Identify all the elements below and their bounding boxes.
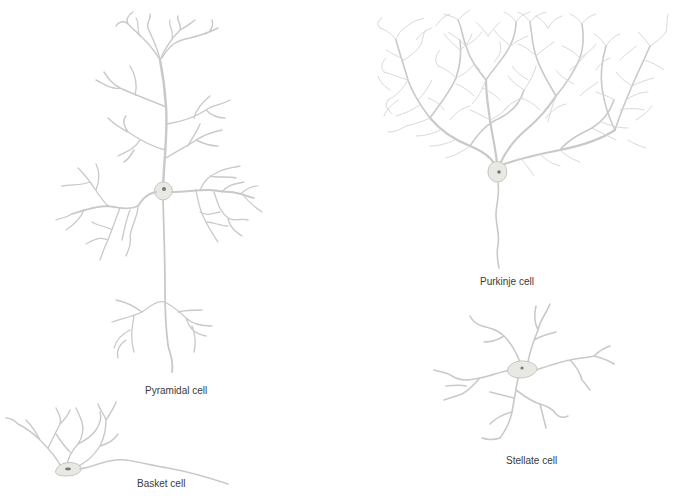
pyramidal-cell-drawing [56,12,262,372]
neuron-illustrations [0,0,683,500]
basket-cell-drawing [6,402,228,484]
purkinje-cell-label: Purkinje cell [480,276,534,287]
neuron-types-figure: Pyramidal cell Purkinje cell Stellate ce… [0,0,683,500]
pyramidal-cell-label: Pyramidal cell [145,385,207,396]
stellate-cell-drawing [434,304,614,440]
stellate-cell-label: Stellate cell [506,455,557,466]
purkinje-cell-drawing [378,10,668,268]
basket-cell-label: Basket cell [137,478,185,489]
